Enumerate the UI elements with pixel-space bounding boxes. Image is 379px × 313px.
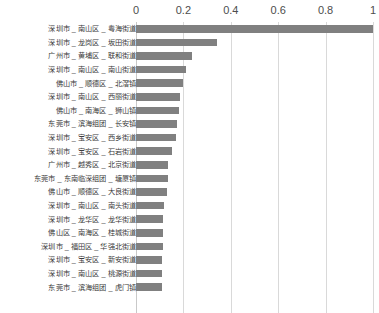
bar: [136, 147, 172, 155]
plot-area: 深圳市 _ 南山区 _ 粤海街道深圳市 _ 龙岗区 _ 坂田街道广州市 _ 黄埔…: [0, 22, 379, 313]
bar-rows: 深圳市 _ 南山区 _ 粤海街道深圳市 _ 龙岗区 _ 坂田街道广州市 _ 黄埔…: [0, 22, 379, 294]
bar: [136, 256, 162, 264]
bar-row: 佛山市 _ 顺德区 _ 大良街道: [0, 185, 379, 199]
bar-category-label: 广州市 _ 黄埔区 _ 联和街道: [11, 51, 136, 60]
bar-track: [136, 185, 379, 199]
bar-track: [136, 49, 379, 63]
bar-row: 深圳市 _ 宝安区 _ 新安街道: [0, 253, 379, 267]
bar: [136, 52, 192, 60]
bar: [136, 39, 217, 47]
x-tick-label: 0.6: [271, 3, 286, 17]
bar-row: 广州市 _ 黄埔区 _ 联和街道: [0, 49, 379, 63]
bar-row: 东莞市 _ 滨海组团 _ 长安镇: [0, 117, 379, 131]
bar: [136, 229, 163, 237]
bar-track: [136, 90, 379, 104]
bar: [136, 215, 163, 223]
bar-row: 深圳市 _ 南山区 _ 西丽街道: [0, 90, 379, 104]
bar: [136, 243, 163, 251]
bar-track: [136, 22, 379, 36]
bar: [136, 175, 168, 183]
bar-category-label: 东莞市 _ 滨海组团 _ 长安镇: [11, 119, 136, 128]
bar-row: 佛山市 _ 南海区 _ 狮山镇: [0, 104, 379, 118]
bar: [136, 120, 177, 128]
bar: [136, 202, 164, 210]
bar-category-label: 深圳市 _ 宝安区 _ 西乡街道: [11, 133, 136, 142]
bar: [136, 66, 186, 74]
bar-category-label: 广州市 _ 越秀区 _ 北京街道: [11, 160, 136, 169]
x-tick-label: 0: [133, 3, 139, 17]
bar-row: 深圳市 _ 南山区 _ 南山街道: [0, 63, 379, 77]
bar: [136, 188, 167, 196]
bar-track: [136, 104, 379, 118]
bar-track: [136, 240, 379, 254]
bar-category-label: 深圳市 _ 龙华区 _ 龙华街道: [11, 215, 136, 224]
bar-category-label: 深圳市 _ 宝安区 _ 新安街道: [11, 255, 136, 264]
bar-track: [136, 158, 379, 172]
bar-category-label: 佛山市 _ 南海区 _ 狮山镇: [11, 106, 136, 115]
bar-row: 深圳市 _ 宝安区 _ 石岩街道: [0, 144, 379, 158]
bar-category-label: 深圳市 _ 南山区 _ 粤海街道: [11, 24, 136, 33]
bar-track: [136, 199, 379, 213]
bar-category-label: 深圳市 _ 龙岗区 _ 坂田街道: [11, 38, 136, 47]
bar-row: 东莞市 _ 滨海组团 _ 虎门镇: [0, 280, 379, 294]
bar-track: [136, 267, 379, 281]
bar-category-label: 深圳市 _ 南山区 _ 南山街道: [11, 65, 136, 74]
x-tick-label: 0.2: [176, 3, 191, 17]
bar: [136, 134, 176, 142]
bar-category-label: 深圳市 _ 南山区 _ 桃源街道: [11, 269, 136, 278]
bar-category-label: 东莞市 _ 滨海组团 _ 虎门镇: [11, 283, 136, 292]
x-tick-label: 1: [370, 3, 376, 17]
bar-track: [136, 280, 379, 294]
bar: [136, 161, 168, 169]
bar-track: [136, 226, 379, 240]
x-axis-top: 00.20.40.60.81: [0, 0, 379, 22]
bar-row: 深圳市 _ 福田区 _ 华强北街道: [0, 240, 379, 254]
bar-track: [136, 212, 379, 226]
bar-row: 深圳市 _ 南山区 _ 南头街道: [0, 199, 379, 213]
bar-row: 佛山市 _ 顺德区 _ 北滘镇: [0, 76, 379, 90]
bar-category-label: 佛山市 _ 顺德区 _ 大良街道: [11, 187, 136, 196]
bar-category-label: 深圳市 _ 宝安区 _ 石岩街道: [11, 147, 136, 156]
bar: [136, 270, 162, 278]
bar-category-label: 深圳市 _ 福田区 _ 华强北街道: [11, 242, 136, 251]
bar-row: 广州市 _ 越秀区 _ 北京街道: [0, 158, 379, 172]
bar-category-label: 深圳市 _ 南山区 _ 西丽街道: [11, 92, 136, 101]
bar-category-label: 深圳市 _ 南山区 _ 南头街道: [11, 201, 136, 210]
bar-track: [136, 253, 379, 267]
bar-row: 深圳市 _ 宝安区 _ 西乡街道: [0, 131, 379, 145]
bar: [136, 283, 162, 291]
bar-row: 佛山区 _ 南海区 _ 桂城街道: [0, 226, 379, 240]
bar: [136, 79, 183, 87]
bar: [136, 107, 179, 115]
bar-row: 深圳市 _ 南山区 _ 粤海街道: [0, 22, 379, 36]
bar-row: 深圳市 _ 龙岗区 _ 坂田街道: [0, 36, 379, 50]
bar-track: [136, 117, 379, 131]
bar: [136, 25, 373, 33]
bar-row: 东莞市 _ 东南临深组团 _ 塘厦镇: [0, 172, 379, 186]
bar-row: 深圳市 _ 南山区 _ 桃源街道: [0, 267, 379, 281]
x-tick-label: 0.8: [318, 3, 333, 17]
bar-chart: 00.20.40.60.81 深圳市 _ 南山区 _ 粤海街道深圳市 _ 龙岗区…: [0, 0, 379, 313]
bar: [136, 93, 180, 101]
bar-track: [136, 63, 379, 77]
bar-category-label: 佛山市 _ 顺德区 _ 北滘镇: [11, 79, 136, 88]
bar-track: [136, 172, 379, 186]
bar-track: [136, 144, 379, 158]
bar-category-label: 佛山区 _ 南海区 _ 桂城街道: [11, 228, 136, 237]
bar-track: [136, 36, 379, 50]
bar-track: [136, 76, 379, 90]
bar-category-label: 东莞市 _ 东南临深组团 _ 塘厦镇: [11, 174, 136, 183]
bar-track: [136, 131, 379, 145]
x-tick-label: 0.4: [223, 3, 238, 17]
bar-row: 深圳市 _ 龙华区 _ 龙华街道: [0, 212, 379, 226]
